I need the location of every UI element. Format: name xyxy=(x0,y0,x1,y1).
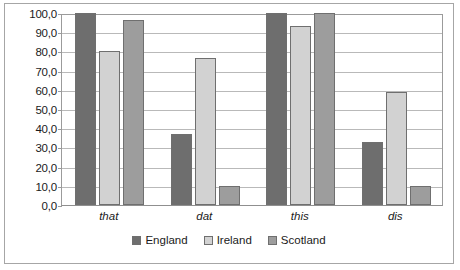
legend-swatch-icon xyxy=(204,236,213,245)
y-axis-tick-label: 100,0 xyxy=(29,8,57,20)
bar-ireland-dis xyxy=(386,92,407,205)
y-axis-tick-label: 90,0 xyxy=(35,27,57,39)
y-axis-tickmark xyxy=(58,206,62,207)
chart-frame: 0,010,020,030,040,050,060,070,080,090,01… xyxy=(4,3,454,264)
y-axis-tick-label: 40,0 xyxy=(35,123,57,135)
legend-item-scotland[interactable]: Scotland xyxy=(268,234,326,246)
legend-swatch-icon xyxy=(268,236,277,245)
chart-legend: EnglandIrelandScotland xyxy=(5,234,453,246)
bar-ireland-this xyxy=(290,26,311,205)
x-axis-category-label: dat xyxy=(196,210,212,222)
chart-plot-wrapper: 0,010,020,030,040,050,060,070,080,090,01… xyxy=(5,4,453,263)
legend-label: Scotland xyxy=(281,234,326,246)
x-axis-category-labels: thatdatthisdis xyxy=(61,208,443,230)
bars-layer xyxy=(62,14,442,205)
y-axis-tick-labels: 0,010,020,030,040,050,060,070,080,090,01… xyxy=(11,14,57,206)
bar-england-dat xyxy=(171,134,192,205)
bar-ireland-dat xyxy=(195,58,216,205)
bar-scotland-that xyxy=(123,20,144,205)
y-axis-tick-label: 80,0 xyxy=(35,46,57,58)
y-axis-tick-label: 20,0 xyxy=(35,162,57,174)
bar-england-that xyxy=(75,13,96,205)
bar-scotland-this xyxy=(314,13,335,205)
x-axis-category-label: that xyxy=(99,210,118,222)
y-axis-tick-label: 70,0 xyxy=(35,66,57,78)
legend-item-england[interactable]: England xyxy=(132,234,187,246)
y-axis-tick-label: 60,0 xyxy=(35,85,57,97)
legend-label: Ireland xyxy=(217,234,252,246)
legend-swatch-icon xyxy=(132,236,141,245)
y-axis-tick-label: 0,0 xyxy=(42,200,57,212)
bar-england-dis xyxy=(362,142,383,205)
bar-england-this xyxy=(266,13,287,205)
x-axis-category-label: dis xyxy=(388,210,403,222)
y-axis-tick-label: 10,0 xyxy=(35,181,57,193)
bar-scotland-dat xyxy=(219,186,240,205)
bar-ireland-that xyxy=(99,51,120,205)
bar-scotland-dis xyxy=(410,186,431,205)
plot-area xyxy=(61,14,443,206)
y-axis-tick-label: 50,0 xyxy=(35,104,57,116)
x-axis-category-label: this xyxy=(291,210,309,222)
legend-label: England xyxy=(145,234,187,246)
legend-item-ireland[interactable]: Ireland xyxy=(204,234,252,246)
y-axis-tick-label: 30,0 xyxy=(35,142,57,154)
